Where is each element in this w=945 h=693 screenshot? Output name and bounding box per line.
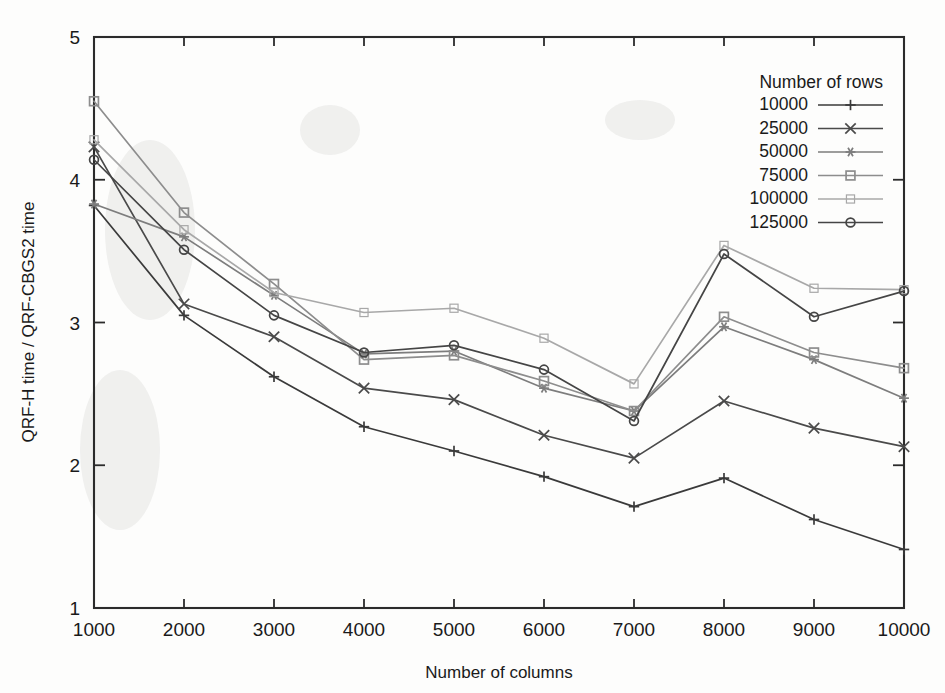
data-point-marker [719,396,729,406]
legend-label-125000: 125000 [750,212,809,232]
legend-label-50000: 50000 [759,141,808,161]
line-chart: 1000200030004000500060007000800090001000… [0,0,945,693]
series-10000 [89,200,909,554]
x-tick-label: 5000 [433,619,475,640]
legend-label-10000: 10000 [759,94,808,114]
y-tick-label: 1 [69,598,80,619]
legend-title: Number of rows [759,72,883,92]
series-line [94,204,904,411]
data-point-marker [269,332,279,342]
data-point-marker [179,299,189,309]
legend: Number of rows10000250005000075000100000… [750,72,884,232]
data-point-marker [846,148,856,157]
series-50000 [89,200,909,416]
x-tick-label: 6000 [523,619,565,640]
figure-canvas: 1000200030004000500060007000800090001000… [0,0,945,693]
data-point-marker [629,501,639,511]
data-point-marker [809,514,819,524]
x-tick-label: 2000 [163,619,205,640]
data-point-marker [629,453,639,463]
legend-label-75000: 75000 [759,165,808,185]
data-point-marker [719,473,729,483]
x-tick-label: 4000 [343,619,385,640]
legend-label-100000: 100000 [750,188,809,208]
data-point-marker [899,544,909,554]
y-tick-label: 2 [69,455,80,476]
y-tick-label: 5 [69,27,80,48]
x-tick-label: 8000 [703,619,745,640]
data-point-marker [539,430,549,440]
y-axis-title: QRF-H time / QRF-CBGS2 time [19,202,38,443]
x-tick-label: 3000 [253,619,295,640]
data-point-marker [845,100,855,110]
x-tick-label: 9000 [793,619,835,640]
x-tick-label: 10000 [878,619,931,640]
x-axis-tick-labels: 1000200030004000500060007000800090001000… [73,619,931,640]
data-point-marker [359,422,369,432]
scan-noise [80,100,675,530]
y-tick-label: 4 [69,170,80,191]
x-axis-title: Number of columns [425,663,572,682]
x-tick-label: 7000 [613,619,655,640]
y-tick-label: 3 [69,313,80,334]
data-point-marker [449,446,459,456]
legend-label-25000: 25000 [759,118,808,138]
x-tick-label: 1000 [73,619,115,640]
data-point-marker [269,372,279,382]
data-point-marker [539,471,549,481]
y-axis-tick-labels: 12345 [69,27,80,619]
